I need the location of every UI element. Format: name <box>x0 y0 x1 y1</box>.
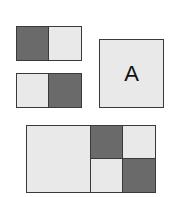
dark-cell <box>49 74 81 107</box>
light-cell <box>17 74 49 107</box>
split-bar-dark-right <box>16 73 82 108</box>
large-light-cell <box>27 126 91 192</box>
label-box-a: A <box>99 39 164 108</box>
composite-grid <box>26 125 156 193</box>
quadrant-top-right-light <box>123 126 155 159</box>
quadrant-bottom-left-light <box>91 159 123 192</box>
quadrant-top-left-dark <box>91 126 123 159</box>
split-bar-dark-left <box>16 26 82 61</box>
quadrant-bottom-right-dark <box>123 159 155 192</box>
light-cell <box>49 27 81 60</box>
dark-cell <box>17 27 49 60</box>
checker-quadrants <box>91 126 155 192</box>
label-a: A <box>124 61 139 87</box>
